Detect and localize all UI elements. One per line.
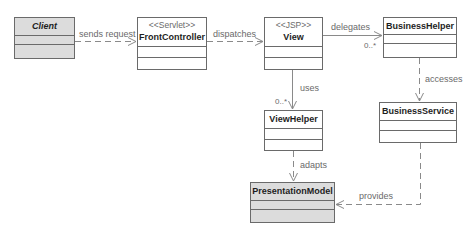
uses-multiplicity: 0..*	[275, 97, 287, 106]
class-view-name: View	[283, 32, 304, 42]
class-view-helper-name: ViewHelper	[269, 114, 318, 124]
delegates-label: delegates	[331, 22, 371, 32]
uml-class-diagram: Client <<Servlet>> FrontController <<JSP…	[0, 0, 474, 233]
class-business-helper-name: BusinessHelper	[386, 21, 455, 31]
relation-provides: provides	[336, 143, 421, 209]
provides-label: provides	[359, 191, 394, 201]
relation-adapts: adapts	[290, 151, 328, 181]
relation-sends-request: sends request	[75, 29, 136, 46]
relation-uses: uses 0..*	[275, 70, 320, 109]
class-view[interactable]: <<JSP>> View	[265, 18, 323, 70]
class-front-controller-stereotype: <<Servlet>>	[149, 20, 195, 30]
class-presentation-model-name: PresentationModel	[252, 186, 333, 196]
class-presentation-model[interactable]: PresentationModel	[251, 183, 335, 223]
relation-dispatches: dispatches	[207, 29, 263, 46]
sends-request-label: sends request	[79, 29, 136, 39]
class-business-service[interactable]: BusinessService	[380, 103, 457, 143]
class-client-name: Client	[32, 21, 58, 31]
class-business-helper[interactable]: BusinessHelper	[384, 18, 457, 58]
adapts-label: adapts	[300, 160, 328, 170]
class-business-service-name: BusinessService	[382, 106, 454, 116]
class-client[interactable]: Client	[15, 18, 75, 59]
delegates-multiplicity: 0..*	[364, 41, 376, 50]
relation-accesses: accesses	[416, 58, 464, 101]
class-view-stereotype: <<JSP>>	[276, 20, 311, 30]
class-view-helper[interactable]: ViewHelper	[265, 111, 323, 151]
uses-label: uses	[300, 83, 320, 93]
relation-delegates: delegates 0..*	[323, 22, 382, 50]
dispatches-label: dispatches	[213, 29, 257, 39]
class-front-controller[interactable]: <<Servlet>> FrontController	[138, 18, 207, 70]
class-front-controller-name: FrontController	[139, 32, 205, 42]
accesses-label: accesses	[425, 74, 463, 84]
